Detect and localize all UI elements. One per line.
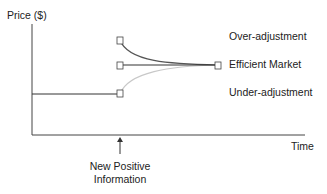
event-arrow-icon: [117, 137, 123, 142]
legend-efficient-market: Efficient Market: [229, 58, 301, 70]
y-axis-label: Price ($): [7, 9, 47, 21]
event-annotation-line2: Information: [85, 173, 155, 186]
marker-over-start: [117, 37, 123, 44]
under-adjustment-curve: [120, 65, 218, 94]
over-adjustment-curve: [120, 40, 218, 65]
x-axis-label: Time: [291, 140, 314, 152]
event-annotation-line1: New Positive: [85, 160, 155, 173]
legend-under-adjustment: Under-adjustment: [229, 86, 312, 98]
marker-convergence: [215, 62, 221, 69]
marker-efficient-start: [117, 62, 123, 69]
legend-over-adjustment: Over-adjustment: [229, 30, 307, 42]
event-annotation: New Positive Information: [85, 160, 155, 186]
marker-under-start: [117, 90, 123, 97]
